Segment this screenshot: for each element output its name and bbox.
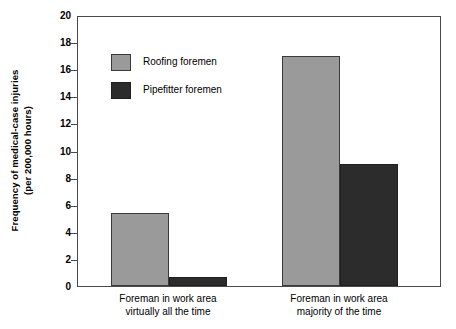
y-axis-tick-label: 0 xyxy=(31,282,71,292)
x-axis-category-label: Foreman in work areavirtually all the ti… xyxy=(78,292,258,318)
x-axis-category-label-line: Foreman in work area xyxy=(78,292,258,305)
bar-chart-figure: Frequency of medical-case injuries (per … xyxy=(0,0,456,329)
y-axis-tick-label: 12 xyxy=(31,119,71,129)
x-axis-category-label-line: Foreman in work area xyxy=(249,292,429,305)
y-axis-tick-label: 4 xyxy=(31,228,71,238)
y-axis-tick-label: 20 xyxy=(31,11,71,21)
legend-item-roofing: Roofing foremen xyxy=(111,53,291,71)
bar-pipefitter-group-2 xyxy=(340,164,398,286)
bar-pipefitter-group-1 xyxy=(169,277,227,286)
y-axis-tick-label: 2 xyxy=(31,255,71,265)
y-axis-tick-label: 10 xyxy=(31,147,71,157)
y-axis-tick-label: 14 xyxy=(31,92,71,102)
x-axis-category-label-line: virtually all the time xyxy=(78,305,258,318)
legend-swatch-pipefitter-icon xyxy=(111,82,131,99)
legend-item-pipefitter: Pipefitter foremen xyxy=(111,81,291,99)
bar-roofing-group-1 xyxy=(111,213,169,286)
x-axis-category-label: Foreman in work areamajority of the time xyxy=(249,292,429,318)
chart-legend: Roofing foremen Pipefitter foremen xyxy=(111,53,291,109)
plot-area: Roofing foremen Pipefitter foremen xyxy=(77,16,441,287)
legend-swatch-roofing-icon xyxy=(111,54,131,71)
y-axis-tick-label: 18 xyxy=(31,38,71,48)
legend-label-pipefitter: Pipefitter foremen xyxy=(143,84,222,96)
x-axis-category-label-line: majority of the time xyxy=(249,305,429,318)
legend-label-roofing: Roofing foremen xyxy=(143,56,217,68)
y-axis-tick-label: 16 xyxy=(31,65,71,75)
y-axis-tick-label: 6 xyxy=(31,201,71,211)
y-axis-title-line-1: Frequency of medical-case injuries xyxy=(10,69,23,231)
y-axis-tick-label: 8 xyxy=(31,174,71,184)
